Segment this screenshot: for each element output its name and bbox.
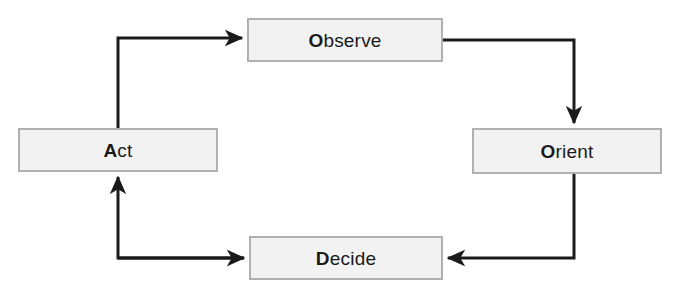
node-decide-label: Decide	[316, 249, 376, 268]
connector-orient-to-decide	[448, 174, 574, 258]
node-observe-label: Observe	[308, 31, 381, 50]
node-observe-label-lead: O	[308, 30, 323, 51]
connector-act-to-observe	[118, 38, 242, 128]
node-orient-label: Orient	[541, 142, 594, 161]
node-act-label-rest: ct	[117, 140, 132, 161]
node-decide[interactable]: Decide	[249, 236, 443, 280]
node-act-label-lead: A	[103, 140, 117, 161]
node-decide-label-lead: D	[316, 248, 330, 269]
node-observe[interactable]: Observe	[247, 18, 443, 62]
node-act[interactable]: Act	[18, 128, 218, 172]
connector-observe-to-orient	[443, 40, 574, 123]
node-observe-label-rest: bserve	[323, 30, 381, 51]
node-orient[interactable]: Orient	[472, 128, 662, 174]
node-decide-label-rest: ecide	[330, 248, 376, 269]
node-act-label: Act	[103, 141, 132, 160]
connector-decide-to-act	[118, 177, 244, 258]
ooda-loop-diagram: Observe Orient Decide Act	[0, 0, 690, 293]
node-orient-label-lead: O	[541, 141, 556, 162]
node-orient-label-rest: rient	[556, 141, 594, 162]
